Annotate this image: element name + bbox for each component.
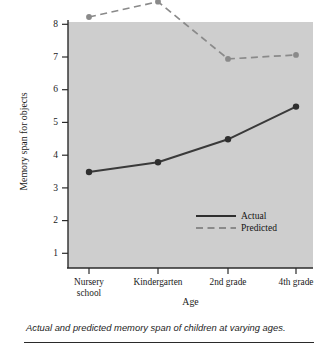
legend-line-solid-icon (196, 211, 236, 221)
y-tick-label: 6 (42, 84, 58, 94)
figure-caption: Actual and predicted memory span of chil… (26, 322, 318, 334)
y-tick-label: 8 (42, 19, 58, 29)
legend-item-predicted: Predicted (196, 222, 277, 234)
figure: 8 7 6 5 4 3 2 1 Nursery school Kindergar… (0, 0, 336, 356)
x-tick-label-4th-grade: 4th grade (261, 277, 331, 288)
chart-plot-area: 8 7 6 5 4 3 2 1 Nursery school Kindergar… (0, 0, 336, 318)
y-tick-label: 1 (42, 248, 58, 258)
x-tick-label-2nd-grade: 2nd grade (193, 277, 263, 288)
caption-divider (24, 342, 314, 343)
x-tick-label-nursery-school: Nursery school (54, 277, 124, 298)
x-axis-ticks (89, 268, 296, 274)
legend-label-predicted: Predicted (241, 222, 277, 234)
y-tick-label: 4 (42, 150, 58, 160)
chart-legend: Actual Predicted (196, 210, 277, 234)
y-tick-label: 2 (42, 215, 58, 225)
y-tick-label: 5 (42, 117, 58, 127)
legend-item-actual: Actual (196, 210, 277, 222)
x-axis-title: Age (68, 296, 313, 307)
series-markers-actual (86, 103, 299, 175)
y-tick-label: 3 (42, 183, 58, 193)
y-axis-ticks (62, 24, 68, 253)
y-tick-label: 7 (42, 52, 58, 62)
series-line-actual (89, 107, 296, 172)
x-tick-label-kindergarten: Kindergarten (117, 277, 199, 288)
series-line-predicted (89, 2, 296, 59)
legend-label-actual: Actual (241, 210, 266, 222)
y-axis-title: Memory span for objects (18, 67, 29, 217)
legend-line-dashed-icon (196, 223, 236, 233)
